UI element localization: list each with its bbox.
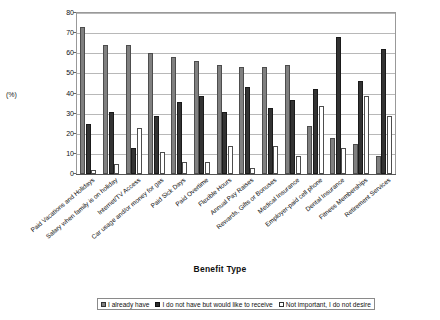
bar (205, 162, 210, 174)
bar (245, 87, 250, 174)
bars-layer (77, 13, 395, 174)
bar-group (213, 13, 236, 174)
bar (376, 156, 381, 174)
bar (330, 138, 335, 174)
bar (80, 27, 85, 174)
legend-item: I do not have but would like to receive (155, 301, 272, 308)
bar (148, 53, 153, 174)
x-axis-labels: Paid Vacations and HolidaysSalary when f… (76, 176, 396, 254)
bar-group (281, 13, 304, 174)
bar (239, 67, 244, 174)
bar (126, 45, 131, 174)
bar (194, 61, 199, 174)
y-axis-labels: 80706050403020100 (58, 12, 74, 175)
legend-item: Not important, I do not desire (279, 301, 371, 308)
bar (182, 162, 187, 174)
bar (86, 124, 91, 174)
y-axis-tick (73, 12, 76, 13)
bar (137, 128, 142, 174)
bar-group (191, 13, 214, 174)
bar (154, 116, 159, 174)
y-axis-tick (73, 173, 76, 174)
bar (114, 164, 119, 174)
bar-group (236, 13, 259, 174)
legend-swatch (279, 302, 284, 307)
bar (103, 45, 108, 174)
bar (177, 102, 182, 174)
y-axis-tick (73, 133, 76, 134)
bar (217, 65, 222, 174)
y-axis-tick (73, 153, 76, 154)
y-axis-tick (73, 32, 76, 33)
bar-group (372, 13, 395, 174)
legend-label: Not important, I do not desire (286, 301, 371, 308)
bar (160, 152, 165, 174)
bar (109, 112, 114, 174)
y-axis-tick (73, 93, 76, 94)
bar (273, 146, 278, 174)
y-axis-title: (%) (6, 91, 17, 98)
bar (262, 67, 267, 174)
bar (336, 37, 341, 174)
bar (381, 49, 386, 174)
x-axis-title: Benefit Type (0, 264, 440, 274)
bar (171, 57, 176, 174)
bar-group (145, 13, 168, 174)
bar (387, 116, 392, 174)
legend-swatch (155, 302, 160, 307)
bar (222, 112, 227, 174)
y-axis-tick (73, 52, 76, 53)
x-axis-line (76, 174, 396, 175)
legend-swatch (101, 302, 106, 307)
bar-group (304, 13, 327, 174)
y-axis-tick (73, 72, 76, 73)
bar-chart: (%) 80706050403020100 Paid Vacations and… (0, 0, 440, 320)
bar (199, 96, 204, 174)
bar (268, 108, 273, 174)
bar (228, 146, 233, 174)
bar (364, 96, 369, 174)
y-axis-tick (73, 113, 76, 114)
bar (319, 106, 324, 174)
bar (353, 144, 358, 174)
bar (341, 148, 346, 174)
bar (313, 89, 318, 174)
bar (131, 148, 136, 174)
bar-group (327, 13, 350, 174)
legend-item: I already have (101, 301, 149, 308)
bar (358, 81, 363, 174)
bar (285, 65, 290, 174)
bar-group (350, 13, 373, 174)
bar-group (100, 13, 123, 174)
legend-label: I do not have but would like to receive (162, 301, 272, 308)
chart-legend: I already haveI do not have but would li… (97, 298, 375, 310)
bar-group (259, 13, 282, 174)
bar (296, 156, 301, 174)
bar-group (77, 13, 100, 174)
bar (290, 100, 295, 174)
legend-label: I already have (108, 301, 149, 308)
bar-group (168, 13, 191, 174)
bar-group (122, 13, 145, 174)
bar (307, 126, 312, 174)
